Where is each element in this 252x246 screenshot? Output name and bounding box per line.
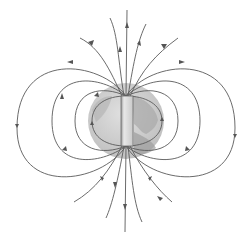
- bar-magnet: [121, 96, 133, 146]
- magnetic-field-diagram: [0, 0, 252, 246]
- field-svg: [0, 0, 252, 246]
